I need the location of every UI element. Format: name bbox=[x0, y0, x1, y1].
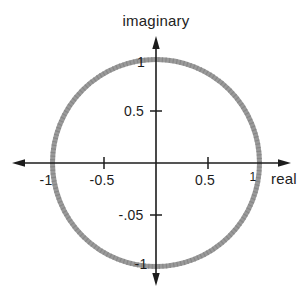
y-tick-label-pos05: 0.5 bbox=[124, 104, 144, 118]
y-axis-label: imaginary bbox=[123, 13, 190, 28]
x-tick-label-neg1: -1 bbox=[40, 173, 53, 187]
chart-canvas bbox=[0, 0, 305, 290]
y-tick-label-neg1: -1 bbox=[135, 257, 148, 271]
x-axis-right-arrowhead-icon bbox=[278, 159, 291, 167]
complex-plane-unit-circle-chart: imaginary real 1 0.5 -.05 -1 -1 -0.5 0.5… bbox=[0, 0, 305, 290]
y-axis-top-arrowhead-icon bbox=[152, 36, 159, 49]
x-tick-label-neg05: -0.5 bbox=[90, 173, 115, 187]
x-tick-label-pos05: 0.5 bbox=[195, 173, 215, 187]
y-tick-label-pos1: 1 bbox=[137, 55, 145, 69]
x-axis-label: real bbox=[271, 171, 297, 186]
y-axis-bottom-arrowhead-icon bbox=[152, 273, 159, 286]
x-axis-left-arrowhead-icon bbox=[12, 159, 25, 167]
y-tick-label-neg05: -.05 bbox=[119, 208, 144, 222]
x-tick-label-pos1: 1 bbox=[250, 171, 257, 183]
